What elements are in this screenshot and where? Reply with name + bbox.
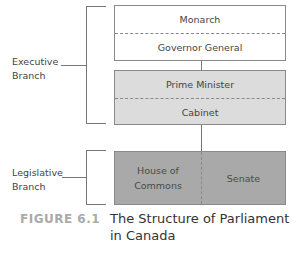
figure-title: The Structure of Parliament in Canada (110, 210, 289, 244)
executive-bracket-vertical (86, 6, 87, 124)
connector-crown-executive (201, 61, 202, 70)
legislative-branch-label: Legislative Branch (12, 166, 63, 194)
monarch-cell: Monarch (115, 6, 285, 33)
legislative-bracket-top (86, 150, 106, 151)
crown-box: Monarch Governor General (114, 5, 286, 61)
executive-box: Prime Minister Cabinet (114, 70, 286, 125)
executive-branch-label: Executive Branch (12, 55, 58, 83)
governor-general-cell: Governor General (115, 34, 285, 61)
senate-cell: Senate (202, 152, 285, 204)
house-of-commons-cell: House of Commons (115, 152, 201, 204)
legislature-box: House of Commons Senate (114, 151, 286, 205)
figure-number: FIGURE 6.1 (20, 212, 100, 226)
legislative-bracket-tick (62, 177, 86, 178)
executive-bracket-top (86, 6, 106, 7)
cabinet-cell: Cabinet (115, 99, 285, 125)
legislative-bracket-vertical (86, 150, 87, 205)
executive-bracket-bottom (86, 123, 106, 124)
executive-bracket-tick (61, 65, 86, 66)
legislative-bracket-bottom (86, 204, 106, 205)
prime-minister-cell: Prime Minister (115, 71, 285, 98)
connector-executive-legislature (201, 125, 202, 152)
